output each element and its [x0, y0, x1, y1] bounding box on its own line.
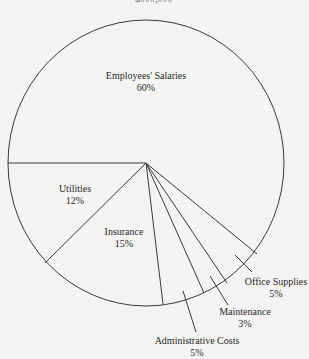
slice-label-office-pct: 5%	[245, 288, 307, 300]
slice-label-utilities: Utilities 12%	[59, 183, 91, 207]
slice-label-salaries: Employees' Salaries 60%	[106, 70, 186, 94]
slice-label-utilities-name: Utilities	[59, 183, 91, 195]
slice-label-admin: Administrative Costs 5%	[155, 335, 240, 359]
slice-label-maintenance-name: Maintenance	[219, 306, 271, 318]
slice-label-insurance-pct: 15%	[105, 238, 144, 250]
slice-label-insurance: Insurance 15%	[105, 226, 144, 250]
slice-label-utilities-pct: 12%	[59, 195, 91, 207]
slice-label-insurance-name: Insurance	[105, 226, 144, 238]
slice-label-admin-name: Administrative Costs	[155, 335, 240, 347]
slice-label-salaries-name: Employees' Salaries	[106, 70, 186, 82]
slice-label-salaries-pct: 60%	[106, 82, 186, 94]
slice-label-admin-pct: 5%	[155, 347, 240, 359]
slice-label-maintenance-pct: 3%	[219, 318, 271, 330]
slice-label-maintenance: Maintenance 3%	[219, 306, 271, 330]
slice-label-office-name: Office Supplies	[245, 276, 307, 288]
slice-label-office: Office Supplies 5%	[245, 276, 307, 300]
